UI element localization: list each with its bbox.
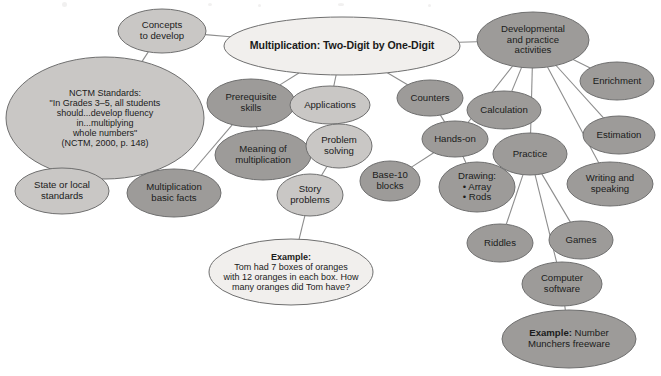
node-center[interactable] xyxy=(224,17,460,75)
edge-counters-to-handson xyxy=(440,115,444,122)
node-handson[interactable] xyxy=(422,121,488,157)
edge-center-to-counters xyxy=(387,73,407,85)
node-riddles[interactable] xyxy=(467,224,533,262)
edge-concepts-to-center xyxy=(205,35,230,37)
edge-center-to-applications xyxy=(334,75,336,86)
concept-map-canvas: Multiplication: Two-Digit by One-DigitCo… xyxy=(0,0,661,376)
node-example1[interactable] xyxy=(209,239,373,305)
edge-devpractice-to-calculation xyxy=(512,67,522,91)
node-concepts[interactable] xyxy=(118,9,206,53)
edge-concepts-to-nctm xyxy=(142,52,148,62)
node-prereq[interactable] xyxy=(207,79,295,127)
node-counters[interactable] xyxy=(397,80,463,116)
node-computersoftware[interactable] xyxy=(522,262,602,306)
edge-storyproblems-to-example1 xyxy=(299,216,305,240)
edge-handson-to-base10 xyxy=(412,153,434,167)
node-devpractice[interactable] xyxy=(477,12,589,68)
node-meaning[interactable] xyxy=(215,130,311,180)
node-writingspeaking[interactable] xyxy=(567,162,653,206)
edge-handson-to-drawing xyxy=(463,157,466,164)
scan-artifact xyxy=(0,0,661,12)
edge-problemsolving-to-storyproblems xyxy=(322,167,327,176)
node-nctm[interactable] xyxy=(6,57,204,179)
edge-center-to-prereq xyxy=(280,73,299,85)
node-layer xyxy=(6,9,655,368)
edge-practice-to-games xyxy=(542,174,571,222)
node-problemsolving[interactable] xyxy=(306,124,372,168)
node-estimation[interactable] xyxy=(583,116,655,154)
node-storyproblems[interactable] xyxy=(277,174,343,216)
node-games[interactable] xyxy=(549,221,613,259)
node-calculation[interactable] xyxy=(467,91,541,129)
edge-devpractice-to-enrichment xyxy=(573,60,590,68)
node-basicfacts[interactable] xyxy=(127,169,221,217)
node-state[interactable] xyxy=(15,168,109,214)
node-practice[interactable] xyxy=(493,133,567,175)
node-base10[interactable] xyxy=(360,161,420,201)
node-drawing[interactable] xyxy=(439,162,515,212)
node-enrichment[interactable] xyxy=(580,62,654,100)
concept-map-svg xyxy=(0,0,661,376)
edge-computersoftware-to-example2 xyxy=(565,306,566,310)
edge-center-to-devpractice xyxy=(459,42,477,43)
node-example2[interactable] xyxy=(502,310,636,368)
node-applications[interactable] xyxy=(290,86,370,124)
